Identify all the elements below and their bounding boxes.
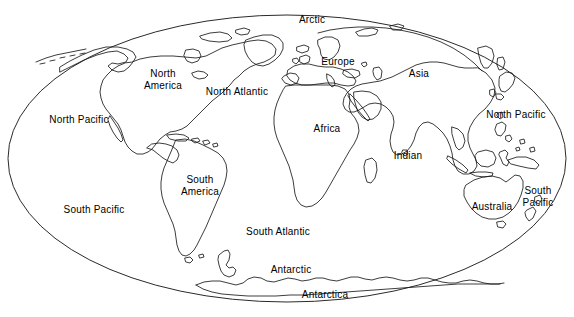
map-frame-ellipse bbox=[8, 15, 566, 302]
coastline-pacific-islet-b bbox=[530, 147, 535, 152]
coastline-sulawesi bbox=[499, 150, 509, 166]
coastline-south-america bbox=[161, 139, 227, 256]
coastline-falklands bbox=[199, 254, 204, 258]
coastlines bbox=[36, 24, 542, 296]
coastline-hudson-bay bbox=[184, 49, 201, 63]
coastline-australia bbox=[464, 175, 523, 219]
coastline-aleutian-islets bbox=[40, 53, 85, 64]
coastline-caribbean-islet-b bbox=[203, 140, 210, 145]
coastline-aleutian-chain bbox=[36, 49, 86, 62]
coastline-new-zealand-north bbox=[535, 195, 542, 204]
coastline-british-isles bbox=[300, 55, 310, 64]
coastline-north-america bbox=[100, 40, 276, 154]
coastline-new-zealand-south bbox=[525, 207, 536, 221]
coastline-alaska bbox=[60, 47, 136, 72]
coastline-caspian-sea bbox=[373, 67, 382, 80]
coastline-philippines-islet bbox=[506, 135, 512, 142]
coastline-arctic-islet-a bbox=[236, 28, 250, 35]
world-map-graphic bbox=[0, 0, 574, 317]
coastline-arctic-islands bbox=[200, 32, 232, 42]
coastline-borneo bbox=[475, 150, 496, 167]
coastline-japan bbox=[499, 72, 515, 92]
coastline-africa bbox=[274, 85, 359, 207]
coastline-pacific-islet-a bbox=[520, 139, 525, 144]
coastline-new-guinea bbox=[508, 157, 539, 169]
coastline-novaya-zemlya bbox=[356, 28, 378, 36]
coastline-japan-south bbox=[496, 94, 504, 100]
coastline-iceland bbox=[297, 45, 309, 53]
coastline-antarctica-lower bbox=[196, 284, 500, 296]
coastline-black-sea bbox=[343, 69, 360, 78]
coastline-madagascar bbox=[364, 158, 377, 183]
coastline-taiwan bbox=[497, 112, 503, 119]
coastline-indochina bbox=[452, 127, 465, 150]
coastline-kamchatka bbox=[478, 46, 494, 68]
coastline-siberian-arctic bbox=[318, 27, 482, 71]
coastline-pacific-islet-c bbox=[516, 147, 520, 151]
coastline-tasmania bbox=[497, 221, 506, 228]
coastline-ireland bbox=[293, 58, 299, 64]
coastline-tierra-del-fuego bbox=[185, 257, 193, 263]
coastline-asia-east bbox=[343, 62, 495, 174]
coastline-antarctic-peninsula bbox=[218, 250, 236, 277]
coastline-philippines bbox=[495, 122, 506, 136]
coastline-scandinavia-islet bbox=[362, 62, 367, 67]
world-map: Arctic Europe Asia North America North A… bbox=[0, 0, 574, 317]
coastline-greenland bbox=[244, 35, 283, 66]
coastline-iberia bbox=[282, 73, 299, 85]
coastline-central-america bbox=[147, 143, 179, 163]
coastline-caribbean-islet-c bbox=[213, 143, 218, 147]
coastline-red-sea bbox=[348, 94, 370, 121]
coastline-scandinavia bbox=[318, 37, 340, 60]
coastline-great-lakes bbox=[192, 71, 208, 79]
